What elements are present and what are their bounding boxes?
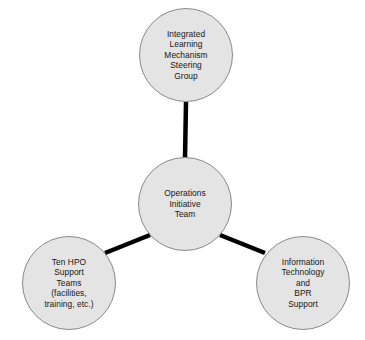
diagram-canvas: Integrated Learning Mechanism Steering G… — [0, 0, 365, 340]
connector-center-to-steering-group — [185, 102, 186, 158]
node-it-bpr-support-label: Information Technology and BPR Support — [277, 257, 330, 310]
node-steering-group[interactable]: Integrated Learning Mechanism Steering G… — [139, 8, 233, 102]
node-operations-initiative-team-label: Operations Initiative Team — [159, 188, 210, 220]
node-operations-initiative-team[interactable]: Operations Initiative Team — [138, 157, 232, 251]
connector-center-to-hpo-support — [105, 235, 150, 253]
connector-center-to-it-bpr — [220, 235, 265, 253]
node-hpo-support-teams[interactable]: Ten HPO Support Teams (facilities, train… — [22, 236, 116, 330]
node-steering-group-label: Integrated Learning Mechanism Steering G… — [159, 29, 212, 82]
node-it-bpr-support[interactable]: Information Technology and BPR Support — [256, 236, 350, 330]
node-hpo-support-teams-label: Ten HPO Support Teams (facilities, train… — [39, 257, 98, 310]
